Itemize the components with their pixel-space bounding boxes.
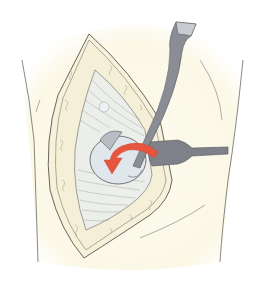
surgical-illustration (0, 0, 261, 295)
illustration-canvas (0, 0, 261, 295)
